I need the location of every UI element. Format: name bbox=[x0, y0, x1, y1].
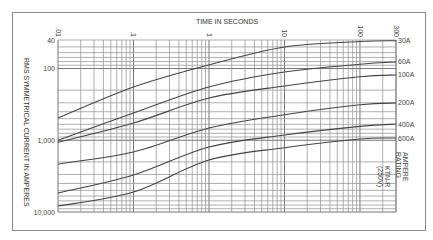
curve-400a bbox=[58, 124, 396, 193]
series-label-400a: 400A bbox=[398, 121, 415, 128]
series-label-600a: 600A bbox=[398, 135, 415, 142]
legend-title: AMPERE RATING bbox=[395, 152, 409, 182]
y-tick-label: 1,000 bbox=[37, 137, 55, 144]
time-current-chart: .01.1110100300 401001,00010,000 30A60A10… bbox=[0, 0, 433, 240]
annotation-line2: (250V) bbox=[376, 166, 384, 187]
x-tick-label: .01 bbox=[55, 27, 62, 37]
x-tick-label: 10 bbox=[281, 29, 288, 37]
legend-title-line1: AMPERE bbox=[402, 152, 409, 182]
series-label-60a: 60A bbox=[398, 58, 411, 65]
series-label-30a: 30A bbox=[398, 37, 411, 44]
legend-title-line2: RATING bbox=[395, 152, 402, 178]
series-labels: 30A60A100A200A400A600A bbox=[398, 37, 415, 141]
series-label-200a: 200A bbox=[398, 99, 415, 106]
y-tick-label: 40 bbox=[47, 37, 55, 44]
fuse-annotation: KTN-R (250V) bbox=[376, 166, 391, 187]
y-tick-label: 100 bbox=[43, 65, 55, 72]
annotation-line1: KTN-R bbox=[384, 166, 391, 187]
x-tick-label: .1 bbox=[130, 31, 137, 37]
y-axis-title: RMS SYMMETRICAL CURRENT IN AMPERES bbox=[23, 58, 30, 207]
x-tick-label: 100 bbox=[357, 25, 364, 37]
x-tick-label: 1 bbox=[206, 33, 213, 37]
x-axis-ticks: .01.1110100300 bbox=[55, 25, 400, 37]
x-tick-label: 300 bbox=[393, 25, 400, 37]
y-axis-ticks: 401001,00010,000 bbox=[34, 37, 56, 216]
curve-100a bbox=[58, 75, 396, 142]
x-axis-title: TIME IN SECONDS bbox=[196, 18, 259, 25]
series-label-100a: 100A bbox=[398, 71, 415, 78]
y-tick-label: 10,000 bbox=[34, 209, 56, 216]
chart-frame bbox=[13, 13, 426, 231]
curve-60a bbox=[58, 62, 396, 140]
